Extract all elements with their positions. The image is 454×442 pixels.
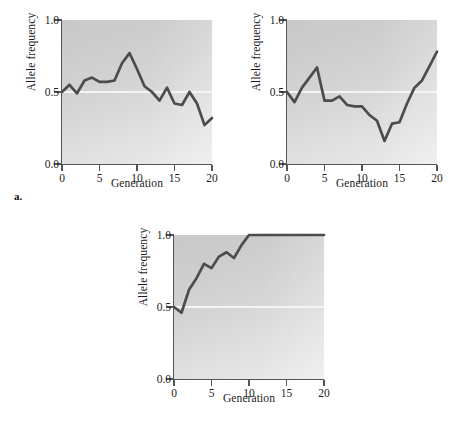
y-axis-title-a: Allele frequency: [25, 0, 37, 117]
y-axis-title-c: Allele frequency: [137, 202, 149, 332]
x-tick-mark: [211, 380, 212, 386]
x-tick-mark: [286, 380, 287, 386]
series-line-a: [62, 20, 212, 164]
x-axis-title-b: Generation: [287, 177, 437, 189]
series-path-c: [174, 235, 324, 313]
x-tick-mark: [173, 380, 174, 386]
x-tick-mark: [61, 165, 62, 171]
x-tick-mark: [248, 380, 249, 386]
x-tick-mark: [136, 165, 137, 171]
x-tick-mark: [361, 165, 362, 171]
x-tick-mark: [436, 165, 437, 171]
series-path-b: [287, 52, 437, 141]
figure-genetic-drift: Allele frequency 0.00.51.0 05101520 Gene…: [0, 0, 454, 442]
x-axis-title-a: Generation: [62, 177, 212, 189]
x-axis-title-c: Generation: [174, 392, 324, 404]
panel-label-a: a.: [14, 190, 22, 202]
x-tick-mark: [211, 165, 212, 171]
y-tick-label: 0.5: [270, 86, 284, 98]
series-path-a: [62, 53, 212, 125]
y-tick-label: 1.0: [157, 229, 171, 241]
x-tick-mark: [399, 165, 400, 171]
x-tick-mark: [99, 165, 100, 171]
series-line-b: [287, 20, 437, 164]
y-tick-label: 1.0: [45, 14, 59, 26]
y-tick-label: 0.0: [157, 373, 171, 385]
series-line-c: [174, 235, 324, 379]
panel-a: Allele frequency 0.00.51.0 05101520 Gene…: [0, 0, 229, 210]
panel-c: Allele frequency 0.00.51.0 05101520 Gene…: [112, 215, 341, 425]
y-axis-title-b: Allele frequency: [250, 0, 262, 117]
y-tick-label: 0.5: [157, 301, 171, 313]
x-tick-mark: [323, 380, 324, 386]
y-tick-label: 0.5: [45, 86, 59, 98]
x-tick-mark: [324, 165, 325, 171]
x-tick-mark: [286, 165, 287, 171]
panel-b: Allele frequency 0.00.51.0 05101520 Gene…: [225, 0, 454, 210]
y-tick-label: 1.0: [270, 14, 284, 26]
x-tick-mark: [174, 165, 175, 171]
y-tick-label: 0.0: [270, 158, 284, 170]
y-tick-label: 0.0: [45, 158, 59, 170]
